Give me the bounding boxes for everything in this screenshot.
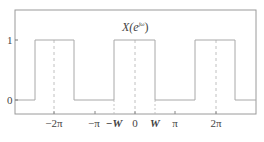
title-superscript: jω — [138, 21, 145, 27]
x-label-minus-pi: −π — [88, 117, 100, 129]
y-label-0: 0 — [7, 94, 13, 106]
center-lines — [54, 40, 216, 114]
pulse-train — [15, 40, 256, 100]
x-label-minus-2pi: −2π — [45, 117, 63, 129]
x-label-minus-w: −W — [106, 117, 124, 129]
x-label-2pi: 2π — [210, 117, 222, 129]
title-main: X(e — [121, 20, 139, 34]
x-label-pi: π — [172, 117, 178, 129]
x-label-w: W — [150, 117, 161, 129]
y-label-1: 1 — [7, 34, 13, 46]
title-close: ) — [145, 20, 149, 34]
chart-title: X(ejω) — [121, 20, 149, 34]
chart: 1 0 −2π −π −W 0 W π 2π X(ejω) — [0, 0, 264, 142]
x-label-zero: 0 — [132, 117, 138, 129]
